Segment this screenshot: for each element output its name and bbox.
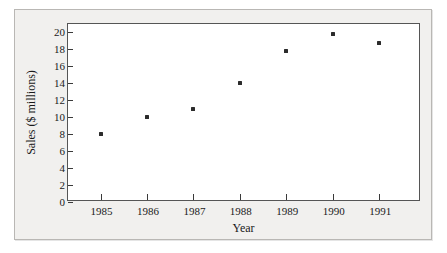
y-tick: 2	[68, 185, 73, 186]
y-axis-title: Sales ($ millions)	[23, 23, 39, 201]
y-tick: 16	[68, 66, 73, 67]
x-axis-title: Year	[67, 221, 420, 236]
x-tick: 1987	[193, 194, 194, 200]
y-tick: 14	[68, 83, 73, 84]
data-point	[145, 115, 149, 119]
data-point	[377, 41, 381, 45]
y-tick: 8	[68, 134, 73, 135]
x-tick: 1991	[379, 194, 380, 200]
y-tick: 10	[68, 117, 73, 118]
data-point	[238, 81, 242, 85]
plot-inner: 02468101214161820 1985198619871988198919…	[68, 24, 419, 200]
y-tick-label: 10	[43, 110, 65, 125]
x-tick: 1988	[240, 194, 241, 200]
data-point	[331, 32, 335, 36]
y-tick-label: 8	[43, 127, 65, 142]
y-tick-label: 20	[43, 25, 65, 40]
y-tick-label: 6	[43, 144, 65, 159]
data-point	[99, 132, 103, 136]
y-tick-label: 18	[43, 42, 65, 57]
y-tick-label: 4	[43, 161, 65, 176]
y-tick: 0	[68, 202, 73, 203]
x-tick-label: 1986	[137, 204, 159, 218]
y-tick-label: 16	[43, 59, 65, 74]
y-tick-label: 14	[43, 76, 65, 91]
y-tick-label: 12	[43, 93, 65, 108]
x-tick-label: 1987	[183, 204, 205, 218]
y-tick-label: 0	[43, 195, 65, 210]
x-tick: 1989	[286, 194, 287, 200]
y-tick: 6	[68, 151, 73, 152]
x-tick: 1985	[101, 194, 102, 200]
x-tick-label: 1989	[276, 204, 298, 218]
y-tick: 12	[68, 100, 73, 101]
y-tick-label: 2	[43, 178, 65, 193]
x-tick-label: 1988	[230, 204, 252, 218]
x-tick-label: 1985	[91, 204, 113, 218]
y-tick: 4	[68, 168, 73, 169]
x-tick-label: 1990	[323, 204, 345, 218]
y-tick: 18	[68, 49, 73, 50]
data-point	[284, 49, 288, 53]
figure-panel: Sales ($ millions) 02468101214161820 198…	[14, 9, 432, 240]
x-tick-label: 1991	[369, 204, 391, 218]
x-tick: 1986	[147, 194, 148, 200]
data-point	[191, 107, 195, 111]
y-axis-title-text: Sales ($ millions)	[24, 70, 39, 155]
x-tick: 1990	[333, 194, 334, 200]
y-tick: 20	[68, 32, 73, 33]
plot-area: 02468101214161820 1985198619871988198919…	[67, 23, 420, 201]
